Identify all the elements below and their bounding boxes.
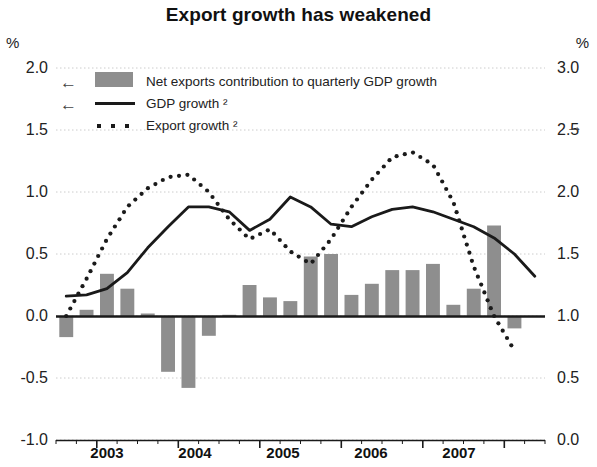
legend-dots-exports	[95, 124, 135, 128]
export-line-dot	[85, 277, 89, 281]
bar-series	[59, 226, 521, 388]
export-line-dot	[345, 211, 349, 215]
export-line-dot	[489, 306, 493, 310]
export-line-dot	[169, 175, 173, 179]
export-line-dot	[432, 165, 436, 169]
export-line-dot	[462, 234, 466, 238]
export-line-dot	[350, 204, 354, 208]
bar	[283, 301, 297, 316]
export-line-dot	[278, 238, 282, 242]
export-line-dot	[470, 259, 474, 263]
export-line-dot	[146, 186, 150, 190]
bar	[406, 270, 420, 316]
bar	[100, 274, 114, 316]
export-line-dot	[238, 227, 242, 231]
export-line-dot	[258, 232, 262, 236]
export-line-dot	[465, 243, 469, 247]
export-line-dot	[482, 290, 486, 294]
export-line-dot	[321, 246, 325, 250]
export-line-dot	[486, 298, 490, 302]
export-line-dot	[316, 253, 320, 257]
export-line-dot	[479, 283, 483, 287]
export-line-dot	[444, 187, 448, 191]
bar	[467, 289, 481, 316]
export-line-dot	[68, 306, 72, 310]
export-line-dot	[505, 336, 509, 340]
chart-root: Export growth has weakened % % 2.0 1.5 1…	[0, 0, 597, 467]
export-line-dot	[76, 292, 80, 296]
export-line-dot	[425, 159, 429, 163]
export-line-dot	[395, 154, 399, 158]
legend-line-gdp	[95, 102, 135, 105]
legend-label-exports: Export growth ²	[146, 118, 238, 133]
export-line-dot	[418, 155, 422, 159]
export-line-dot	[448, 194, 452, 198]
export-line-dot	[440, 179, 444, 183]
export-line-dot	[365, 184, 369, 188]
bar	[243, 285, 257, 316]
bar	[446, 305, 460, 316]
export-line-dot	[104, 239, 108, 243]
legend-arrow-bars: ←	[60, 74, 77, 91]
export-line-dot	[232, 222, 236, 226]
export-line-dot	[122, 210, 126, 214]
export-line-dot	[244, 233, 248, 237]
bar	[120, 289, 134, 316]
bar	[345, 295, 359, 316]
bar	[182, 316, 196, 388]
export-line-dot	[192, 177, 196, 181]
export-line-dot	[509, 343, 513, 347]
export-line-dot	[501, 329, 505, 333]
legend-swatch-bars	[95, 72, 133, 87]
bar	[508, 316, 522, 328]
export-line-dot	[272, 232, 276, 236]
export-line-dot	[88, 269, 92, 273]
export-line-dot	[161, 178, 165, 182]
export-line-dot	[382, 164, 386, 168]
export-line-dot	[113, 224, 117, 228]
export-line-dot	[411, 151, 415, 155]
export-line-dot	[360, 191, 364, 195]
plot-canvas	[0, 0, 597, 467]
export-line-dot	[452, 202, 456, 206]
export-line-dot	[127, 203, 131, 207]
export-line-dot	[496, 321, 500, 325]
export-line-dot	[100, 246, 104, 250]
export-line-dot	[289, 250, 293, 254]
export-line-dot	[64, 314, 68, 318]
export-line-dot	[436, 172, 440, 176]
export-line-dot	[297, 255, 301, 259]
export-line-dot	[266, 228, 270, 232]
export-line-dot	[473, 267, 477, 271]
export-line-dot	[387, 158, 391, 162]
export-line-dot	[153, 182, 157, 186]
export-line-dot	[336, 226, 340, 230]
legend-label-bars: Net exports contribution to quarterly GD…	[146, 74, 437, 89]
export-line-dot	[492, 314, 496, 318]
export-line-dot	[221, 209, 225, 213]
legend-arrow-exports: →	[566, 118, 583, 135]
export-line-dot	[92, 262, 96, 266]
bar	[59, 316, 73, 337]
legend-label-gdp: GDP growth ²	[146, 96, 228, 111]
bar	[304, 257, 318, 317]
export-line-dot	[133, 198, 137, 202]
bar	[385, 270, 399, 316]
export-line-dot	[216, 202, 220, 206]
gdp-growth-line	[66, 197, 535, 296]
legend-arrow-gdp: ←	[60, 96, 77, 113]
export-line-dot	[460, 226, 464, 230]
export-line-dot	[355, 197, 359, 201]
bar	[161, 316, 175, 372]
export-line-dot	[327, 240, 331, 244]
export-line-dot	[199, 183, 203, 187]
bar	[202, 316, 216, 336]
export-line-dot	[226, 215, 230, 219]
export-line-dot	[332, 233, 336, 237]
export-line-dot	[467, 251, 471, 255]
export-line-dot	[311, 260, 315, 264]
bar	[263, 297, 277, 316]
export-line-dot	[250, 236, 254, 240]
export-line-dot	[283, 244, 287, 248]
export-line-dot	[140, 192, 144, 196]
